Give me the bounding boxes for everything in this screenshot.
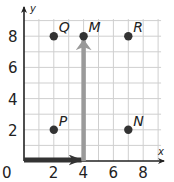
y-tick-label: 4: [8, 91, 18, 109]
y-tick-label: 6: [8, 59, 18, 77]
point-p: [50, 126, 58, 134]
grid-lines: [24, 19, 161, 161]
point-label-r: R: [133, 19, 143, 35]
point-q: [50, 32, 58, 40]
x-tick-label: 8: [138, 164, 148, 182]
x-tick-label: 4: [79, 164, 89, 182]
x-tick-label: 2: [49, 164, 59, 182]
point-label-m: M: [89, 19, 101, 35]
x-tick-label: 6: [108, 164, 118, 182]
point-label-n: N: [133, 113, 144, 129]
y-axis-label: y: [29, 3, 37, 14]
y-tick-label: 8: [8, 28, 18, 46]
point-n: [124, 126, 132, 134]
point-label-q: Q: [59, 19, 70, 35]
origin-label: 0: [2, 164, 12, 182]
x-axis-label: x: [157, 146, 164, 157]
point-m: [79, 32, 87, 40]
y-tick-label: 2: [8, 122, 18, 140]
point-r: [124, 32, 132, 40]
point-label-p: P: [59, 113, 68, 129]
coordinate-grid-diagram: yx QMRPN 024682468: [0, 0, 174, 182]
